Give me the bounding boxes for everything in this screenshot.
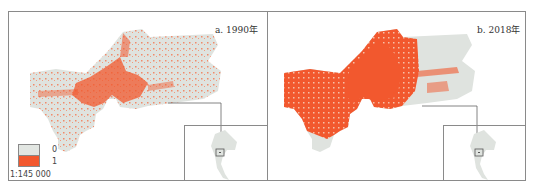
panel-2018: b. 2018年 bbox=[267, 11, 526, 181]
scale-text: 1:145 000 bbox=[10, 170, 51, 179]
legend-label-0: 0 bbox=[52, 145, 57, 154]
panel-title: a. 1990年 bbox=[215, 23, 258, 36]
inset-country-map bbox=[444, 126, 527, 182]
inset-country-map bbox=[185, 126, 268, 182]
legend-label-1: 1 bbox=[52, 157, 57, 166]
inset-map-frame bbox=[443, 125, 526, 181]
legend-swatch-1 bbox=[18, 155, 40, 167]
panel-1990: a. 1990年 0 1 1:145 000 bbox=[8, 11, 267, 181]
inset-map-frame bbox=[184, 125, 267, 181]
panel-title: b. 2018年 bbox=[477, 23, 520, 36]
